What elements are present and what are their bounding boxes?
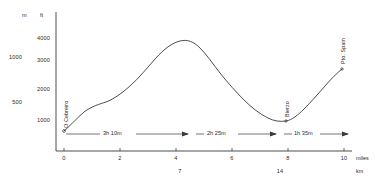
y-tick-ft-2000: 2000 <box>26 87 50 93</box>
y-tick-m-1000: 1000 <box>2 55 22 61</box>
y-tick-ft-4000: 4000 <box>26 36 50 42</box>
waypoint-label-end: Pto. Spain <box>341 38 346 64</box>
segment-label-first: 3h 10m <box>103 131 122 137</box>
x-tick-0: 0 <box>54 156 74 162</box>
x-tick-4: 4 <box>166 156 186 162</box>
x-tick-10: 10 <box>334 156 354 162</box>
y-tick-ft-1000: 1000 <box>26 118 50 124</box>
y-axis-unit-feet-header: ft <box>40 13 43 19</box>
x-tick-2: 2 <box>110 156 130 162</box>
x-tick-km-7: 7 <box>170 169 190 175</box>
x-tick-6: 6 <box>222 156 242 162</box>
waypoint-label-start: O Cebreiro <box>64 101 69 128</box>
x-tick-8: 8 <box>278 156 298 162</box>
x-axis-unit-km: km <box>356 169 363 174</box>
segment-label-second: 2h 25m <box>207 131 226 137</box>
y-tick-m-500: 500 <box>2 100 22 106</box>
elevation-curve <box>64 40 342 131</box>
elevation-profile-chart: m ft 4000 3000 2000 1000 1000 500 0 2 4 … <box>0 0 375 183</box>
segment-arrow-first <box>66 131 189 136</box>
segment-label-third: 1h 35m <box>294 131 313 137</box>
x-tick-km-14: 14 <box>270 169 290 175</box>
waypoint-label-valley: Bierzo <box>285 101 290 117</box>
x-axis-unit-miles: miles <box>356 156 369 161</box>
y-axis-unit-meters-header: m <box>22 13 27 19</box>
y-tick-ft-3000: 3000 <box>26 58 50 64</box>
